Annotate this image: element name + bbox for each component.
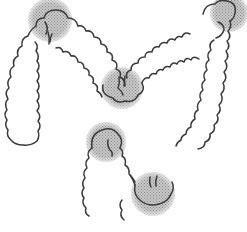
highlight-edge-fade [210, 0, 247, 32]
transverse-left-bottom [56, 48, 102, 98]
left-limb-outer [5, 26, 40, 145]
highlight-edge-fade [28, 0, 72, 42]
highlight-edge-fade [131, 172, 175, 216]
right-up-bottom [142, 57, 199, 83]
sigmoid-right [120, 148, 135, 220]
sigmoid-left [82, 148, 92, 216]
colon-illustration [0, 0, 247, 232]
highlight-edge-fade [101, 67, 143, 109]
highlight-regions [28, 0, 247, 216]
right-down-inner [176, 40, 214, 146]
colon-drawing [0, 0, 247, 232]
